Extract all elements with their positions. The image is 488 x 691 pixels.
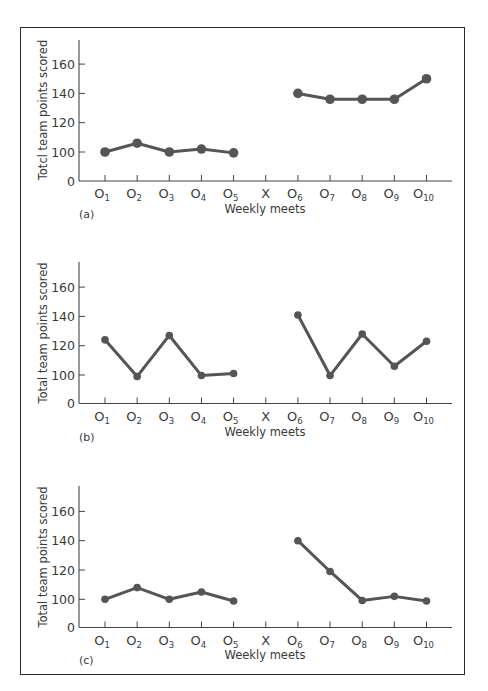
- data-point: [390, 94, 400, 104]
- y-tick-label: 140: [51, 533, 75, 548]
- data-point: [166, 596, 174, 604]
- data-point: [101, 336, 109, 344]
- y-axis-title: Total team points scored: [36, 486, 50, 628]
- x-tick-label: O3: [158, 186, 174, 203]
- data-point: [197, 144, 207, 154]
- data-point: [230, 597, 238, 605]
- series-line-baseline: [105, 335, 234, 376]
- x-tick-label: O4: [191, 409, 207, 426]
- x-axis-title: Weekly meets: [224, 648, 305, 662]
- x-tick-label: O8: [351, 409, 367, 426]
- x-axis-title: Weekly meets: [224, 425, 305, 439]
- y-tick-label: 140: [51, 86, 75, 101]
- chart-panel-a: 0100120140160O1O2O3O4O5XO6O7O8O9O10Totcl…: [36, 40, 452, 221]
- data-point: [166, 332, 174, 340]
- data-point: [358, 330, 366, 338]
- x-tick-label: O9: [384, 186, 400, 203]
- y-tick-label: 100: [51, 145, 75, 160]
- y-tick-label: 160: [51, 280, 75, 295]
- y-tick-label: 140: [51, 309, 75, 324]
- x-tick-label: O5: [223, 633, 239, 650]
- x-tick-label: O2: [126, 186, 142, 203]
- x-tick-label: O6: [287, 186, 303, 203]
- data-point: [133, 584, 141, 592]
- data-point: [133, 373, 141, 381]
- series-line-treatment: [298, 315, 427, 376]
- chart-panel-c: 0100120140160O1O2O3O4O5XO6O7O8O9O10Total…: [36, 486, 452, 667]
- x-tick-label: O9: [384, 409, 400, 426]
- data-point: [294, 537, 302, 545]
- data-point: [326, 568, 334, 576]
- y-tick-label: 0: [67, 396, 75, 411]
- y-tick-label: 120: [51, 563, 75, 578]
- data-point: [422, 74, 432, 84]
- x-tick-label: O8: [351, 633, 367, 650]
- y-axis-title: Total team points scored: [36, 262, 50, 404]
- panel-label: (c): [79, 654, 94, 667]
- y-tick-label: 0: [67, 620, 75, 635]
- data-point: [198, 588, 206, 596]
- x-tick-label: O6: [287, 409, 303, 426]
- x-tick-label: O10: [413, 186, 434, 203]
- y-tick-label: 0: [67, 174, 75, 189]
- x-tick-label: O5: [223, 186, 239, 203]
- figure-charts: 0100120140160O1O2O3O4O5XO6O7O8O9O10Totcl…: [0, 0, 488, 691]
- series-line-treatment: [298, 541, 427, 601]
- x-tick-label: O4: [191, 186, 207, 203]
- data-point: [229, 148, 239, 158]
- y-tick-label: 160: [51, 57, 75, 72]
- x-tick-label: O8: [351, 186, 367, 203]
- x-tick-label: O3: [158, 633, 174, 650]
- x-tick-label: O1: [94, 409, 110, 426]
- data-point: [357, 94, 367, 104]
- x-tick-label: O10: [413, 633, 434, 650]
- panel-label: (b): [79, 431, 95, 444]
- data-point: [423, 597, 431, 605]
- x-tick-label: X: [261, 409, 270, 424]
- x-tick-label: O4: [191, 633, 207, 650]
- x-tick-label: O7: [319, 186, 335, 203]
- x-tick-label: O1: [94, 186, 110, 203]
- x-tick-label: O2: [126, 409, 142, 426]
- y-tick-label: 100: [51, 592, 75, 607]
- x-tick-label: O10: [413, 409, 434, 426]
- y-tick-label: 160: [51, 504, 75, 519]
- data-point: [294, 311, 302, 319]
- y-tick-label: 120: [51, 115, 75, 130]
- data-point: [358, 597, 366, 605]
- x-tick-label: O6: [287, 633, 303, 650]
- data-point: [132, 138, 142, 148]
- data-point: [325, 94, 335, 104]
- y-tick-label: 100: [51, 368, 75, 383]
- data-point: [198, 372, 206, 380]
- x-tick-label: O7: [319, 409, 335, 426]
- data-point: [101, 596, 109, 604]
- y-axis-title: Totcl team points scored: [36, 40, 50, 181]
- data-point: [165, 147, 175, 157]
- data-point: [326, 372, 334, 380]
- x-tick-label: O3: [158, 409, 174, 426]
- x-tick-label: X: [261, 633, 270, 648]
- x-tick-label: X: [261, 186, 270, 201]
- x-tick-label: O5: [223, 409, 239, 426]
- data-point: [293, 89, 303, 99]
- data-point: [391, 593, 399, 601]
- data-point: [100, 147, 110, 157]
- data-point: [423, 338, 431, 346]
- x-axis-title: Weekly meets: [224, 202, 305, 216]
- x-tick-label: O1: [94, 633, 110, 650]
- y-tick-label: 120: [51, 338, 75, 353]
- data-point: [391, 362, 399, 370]
- data-point: [230, 370, 238, 378]
- x-tick-label: O9: [384, 633, 400, 650]
- panel-label: (a): [79, 208, 94, 221]
- chart-panel-b: 0100120140160O1O2O3O4O5XO6O7O8O9O10Total…: [36, 262, 452, 444]
- x-tick-label: O7: [319, 633, 335, 650]
- x-tick-label: O2: [126, 633, 142, 650]
